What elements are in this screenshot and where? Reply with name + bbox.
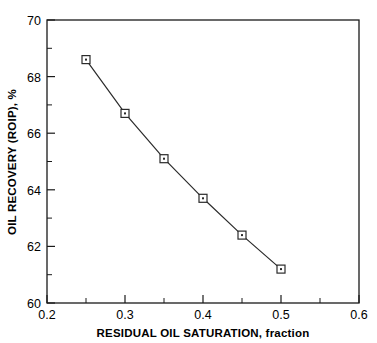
line-chart: 70 68 66 64 62 60 0.2 0.3 0.4 0.5 0.6 RE… [0,0,377,343]
x-axis-title: RESIDUAL OIL SATURATION, fraction [97,327,310,339]
x-tick-label: 0.4 [194,308,211,322]
data-point-marker [82,56,90,64]
data-point-marker [160,155,168,163]
data-point-marker [277,265,285,273]
data-point-marker [121,109,129,117]
x-tick-label: 0.2 [38,308,55,322]
y-axis-title: OIL RECOVERY (ROIP), % [6,89,18,235]
y-tick-label: 70 [27,14,41,28]
y-tick-label: 62 [27,240,41,254]
chart-container: 70 68 66 64 62 60 0.2 0.3 0.4 0.5 0.6 RE… [0,0,377,343]
x-tick-label: 0.6 [350,308,367,322]
y-tick-label: 66 [27,127,41,141]
y-tick-label: 68 [27,71,41,85]
data-point-marker [199,194,207,202]
chart-background [0,0,377,343]
data-point-marker [238,231,246,239]
x-tick-label: 0.5 [272,308,289,322]
x-tick-label: 0.3 [116,308,133,322]
y-tick-label: 64 [27,184,41,198]
